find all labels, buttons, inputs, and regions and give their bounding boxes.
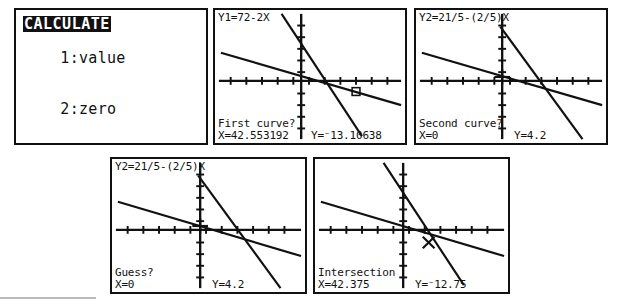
first-curve-screen[interactable]: Y1=72-2X First curve? X=42.553192	[213, 8, 407, 145]
menu-title: CALCULATE	[23, 16, 111, 32]
menu-item-zero[interactable]: 2:zero	[23, 84, 200, 135]
coordinate-x: X=42.375	[318, 279, 369, 291]
calculate-menu-screen[interactable]: CALCULATE 1:value 2:zero 3:minimum 4:max…	[14, 8, 208, 145]
second-curve-screen[interactable]: Y2=21/5-(2/5)X Second curve? X=0 Y=4.2	[414, 8, 608, 145]
guess-screen[interactable]: Y2=21/5-(2/5)X Guess? X=0 Y=4.2	[110, 157, 307, 294]
coordinate-x: X=42.553192	[218, 130, 289, 142]
cursor-plus-icon	[494, 69, 510, 85]
coordinate-x: X=0	[419, 130, 438, 142]
menu-item-index: 2:	[60, 101, 79, 118]
intersection-screen[interactable]: Intersection X=42.375 Y=⁻12.75	[313, 157, 510, 294]
coordinate-y: Y=⁻13.10638	[311, 130, 382, 142]
equation-label: Y2=21/5-(2/5)X	[419, 12, 509, 24]
menu-item-value[interactable]: 1:value	[23, 33, 200, 84]
equation-label: Y1=72-2X	[218, 12, 269, 24]
coordinate-y: Y=⁻12.75	[415, 279, 466, 291]
coordinate-y: Y=4.2	[514, 130, 546, 142]
coordinate-y: Y=4.2	[212, 279, 244, 291]
page-rule-divider	[0, 297, 96, 299]
menu-item-label: zero	[79, 100, 116, 118]
coordinate-x: X=0	[115, 279, 134, 291]
menu-item-index: 1:	[60, 50, 79, 67]
menu-item-minimum[interactable]: 3:minimum	[23, 135, 200, 145]
equation-label: Y2=21/5-(2/5)X	[115, 161, 205, 173]
menu-item-label: value	[79, 49, 126, 67]
cursor-cross-icon	[423, 237, 435, 249]
